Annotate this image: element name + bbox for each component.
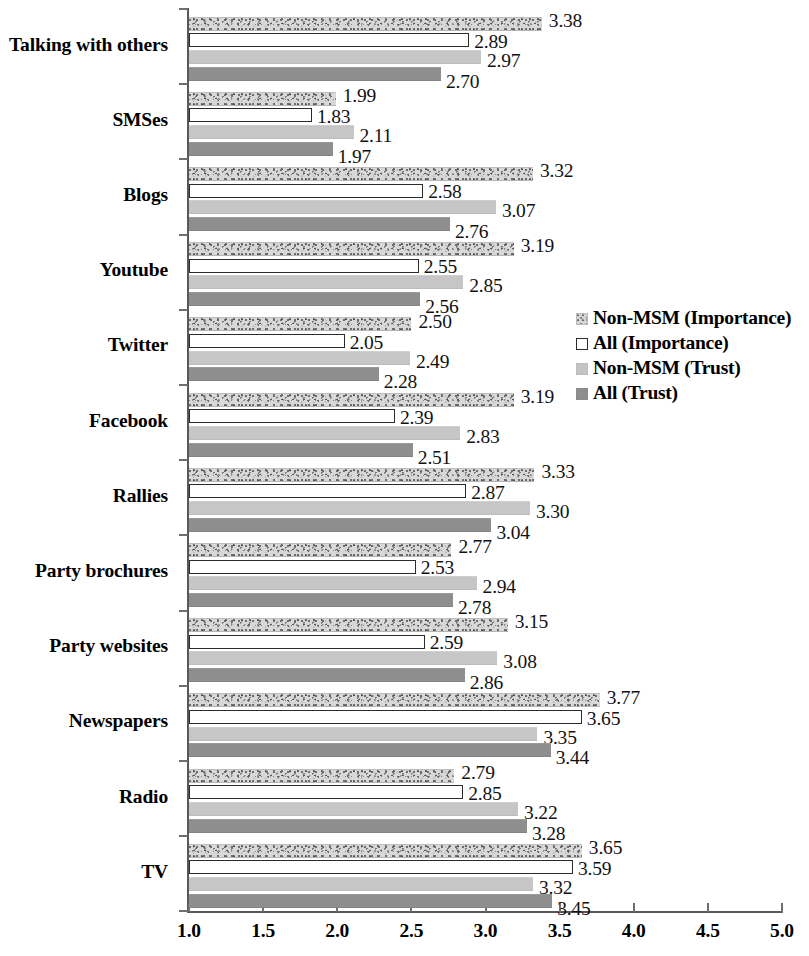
category-label: Blogs — [123, 184, 168, 206]
value-axis-tick-label: 3.5 — [548, 920, 572, 942]
bar-value-label: 2.79 — [461, 762, 494, 784]
category-label: Talking with others — [9, 34, 168, 56]
bar-value-label: 2.49 — [416, 351, 449, 373]
chart-legend: Non-MSM (Importance)All (Importance)Non-… — [576, 307, 809, 407]
bar-group: Radio2.792.853.223.28 — [0, 762, 809, 837]
bar-value-label: 3.38 — [549, 10, 582, 32]
bar — [189, 693, 600, 707]
bar — [189, 769, 454, 783]
bar — [189, 108, 312, 122]
bar — [189, 668, 465, 682]
category-label: Radio — [119, 786, 168, 808]
legend-label: All (Trust) — [593, 382, 678, 404]
bar-value-label: 3.65 — [589, 837, 622, 859]
value-axis-tick-label: 2.0 — [325, 920, 349, 942]
bar — [189, 743, 551, 757]
bar-group: Party brochures2.772.532.942.78 — [0, 536, 809, 611]
category-label: TV — [141, 861, 168, 883]
bar — [189, 618, 508, 632]
bar-value-label: 3.19 — [521, 235, 554, 257]
bar — [189, 468, 534, 482]
bar-value-label: 3.59 — [578, 858, 611, 880]
bar — [189, 443, 413, 457]
bar — [189, 785, 463, 799]
bar — [189, 351, 410, 365]
category-label: Rallies — [113, 485, 168, 507]
bar — [189, 275, 463, 289]
bar-value-label: 2.11 — [360, 125, 393, 147]
category-label: Youtube — [100, 259, 168, 281]
value-axis-tick-label: 5.0 — [770, 920, 794, 942]
legend-label: Non-MSM (Importance) — [593, 307, 791, 329]
bar — [189, 802, 518, 816]
bar — [189, 367, 379, 381]
bar-group: Rallies3.332.873.303.04 — [0, 461, 809, 536]
bar-value-label: 2.94 — [483, 576, 516, 598]
value-axis-tick-label: 3.0 — [474, 920, 498, 942]
category-label: Twitter — [108, 334, 168, 356]
bar-value-label: 2.77 — [458, 536, 491, 558]
bar-value-label: 3.45 — [557, 898, 590, 920]
legend-swatch-icon — [576, 363, 588, 375]
bar-group: SMSes1.991.832.111.97 — [0, 85, 809, 160]
bar-group: Youtube3.192.552.852.56 — [0, 236, 809, 311]
bar — [189, 393, 514, 407]
value-axis-tick-label: 1.0 — [177, 920, 201, 942]
bar — [189, 317, 411, 331]
bar — [189, 710, 582, 724]
bar — [189, 17, 542, 31]
bar — [189, 844, 582, 858]
bar — [189, 576, 477, 590]
bar — [189, 518, 491, 532]
bar — [189, 167, 533, 181]
legend-item[interactable]: All (Importance) — [576, 332, 809, 357]
value-axis-tick-label: 1.5 — [251, 920, 275, 942]
bar — [189, 727, 537, 741]
bar-value-label: 3.15 — [515, 611, 548, 633]
bar-value-label: 2.50 — [418, 311, 451, 333]
bar — [189, 50, 481, 64]
bar-group: Talking with others3.382.892.972.70 — [0, 10, 809, 85]
bar — [189, 819, 527, 833]
bar — [189, 125, 354, 139]
bar — [189, 501, 530, 515]
bar-value-label: 3.65 — [587, 708, 620, 730]
bar — [189, 560, 416, 574]
bar — [189, 635, 425, 649]
bar — [189, 593, 453, 607]
bar — [189, 651, 497, 665]
legend-item[interactable]: Non-MSM (Trust) — [576, 357, 809, 382]
bar-value-label: 3.30 — [536, 501, 569, 523]
bar-value-label: 3.33 — [541, 461, 574, 483]
legend-swatch-icon — [576, 388, 588, 400]
bar-chart: 1.01.52.02.53.03.54.04.55.0 Talking with… — [0, 0, 809, 956]
category-label: Party brochures — [35, 560, 168, 582]
bar-value-label: 2.85 — [469, 275, 502, 297]
bar — [189, 894, 552, 908]
bar — [189, 292, 420, 306]
bar — [189, 484, 466, 498]
bar — [189, 142, 333, 156]
bar — [189, 184, 423, 198]
bar-value-label: 1.99 — [343, 85, 376, 107]
legend-item[interactable]: Non-MSM (Importance) — [576, 307, 809, 332]
legend-label: Non-MSM (Trust) — [593, 357, 740, 379]
bar-value-label: 3.22 — [524, 802, 557, 824]
plot-area: 1.01.52.02.53.03.54.04.55.0 Talking with… — [0, 0, 809, 956]
category-label: SMSes — [112, 109, 168, 131]
category-label: Facebook — [89, 410, 168, 432]
value-axis-tick-label: 4.5 — [696, 920, 720, 942]
bar-value-label: 2.97 — [487, 50, 520, 72]
bar — [189, 67, 441, 81]
legend-item[interactable]: All (Trust) — [576, 382, 809, 407]
bar-value-label: 3.19 — [521, 386, 554, 408]
value-axis-tick-label: 4.0 — [622, 920, 646, 942]
bar — [189, 242, 514, 256]
legend-label: All (Importance) — [593, 332, 728, 354]
bar — [189, 33, 469, 47]
category-label: Party websites — [49, 635, 168, 657]
bar — [189, 409, 395, 423]
legend-swatch-icon — [576, 338, 588, 350]
bar-value-label: 3.08 — [503, 651, 536, 673]
bar-value-label: 3.77 — [607, 687, 640, 709]
